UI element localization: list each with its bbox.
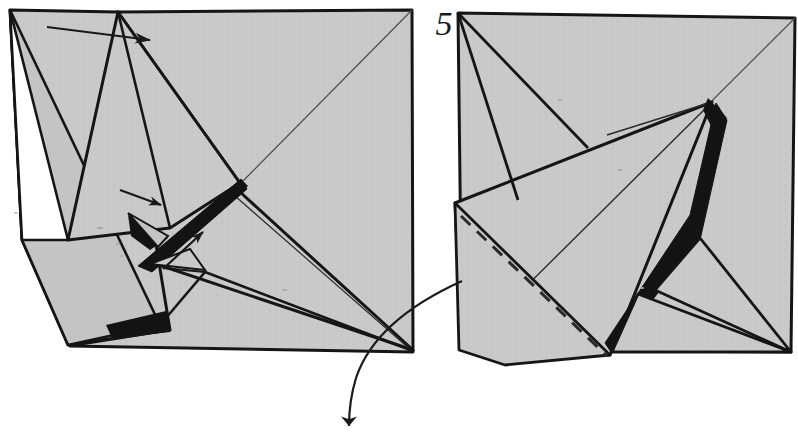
step-number-label: 5	[427, 4, 461, 44]
origami-diagram-canvas: 5	[0, 0, 798, 442]
origami-figure-svg	[0, 0, 798, 442]
right-panel	[455, 13, 795, 365]
left-panel	[10, 10, 413, 352]
